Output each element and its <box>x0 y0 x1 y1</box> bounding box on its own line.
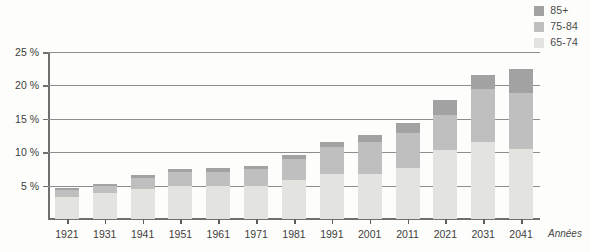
x-tick-mark <box>105 219 107 224</box>
bar-slot <box>464 52 502 219</box>
bar-segment-75-84 <box>93 186 117 193</box>
bar-segment-75-84 <box>168 172 192 186</box>
stacked-bar-chart: 85+75-8465-74 5 %10 %15 %20 %25 % 192119… <box>0 0 590 252</box>
stacked-bar <box>471 75 495 219</box>
x-tick-label: 1961 <box>199 228 237 240</box>
bar-slot <box>162 52 200 219</box>
bar-slot <box>389 52 427 219</box>
legend-item-label: 65-74 <box>550 37 578 48</box>
bar-segment-75-84 <box>282 159 306 180</box>
x-tick-label: 2011 <box>389 228 427 240</box>
bar-segment-75-84 <box>320 147 344 174</box>
bar-slot <box>237 52 275 219</box>
x-tick-mark <box>521 219 523 224</box>
legend-item: 85+ <box>534 4 568 17</box>
x-tick-label: 1941 <box>124 228 162 240</box>
x-tick-mark <box>294 219 296 224</box>
bar-segment-65-74 <box>433 150 457 219</box>
bar-slot <box>199 52 237 219</box>
x-tick-mark <box>256 219 258 224</box>
x-tick-mark <box>180 219 182 224</box>
stacked-bar <box>358 135 382 219</box>
x-tick-label: 2001 <box>351 228 389 240</box>
stacked-bar <box>55 188 79 219</box>
legend-swatch-icon <box>534 22 544 32</box>
x-tick-label: 1981 <box>275 228 313 240</box>
bar-segment-65-74 <box>471 142 495 219</box>
x-tick-mark <box>332 219 334 224</box>
stacked-bar <box>131 175 155 219</box>
bar-segment-65-74 <box>93 193 117 219</box>
bar-segment-75-84 <box>55 190 79 197</box>
bar-segment-65-74 <box>55 197 79 219</box>
bar-segment-85+ <box>509 69 533 94</box>
x-tick-label: 1971 <box>237 228 275 240</box>
x-tick-label: 1931 <box>86 228 124 240</box>
stacked-bar <box>168 169 192 219</box>
x-tick-mark <box>370 219 372 224</box>
legend-item-label: 85+ <box>550 5 568 16</box>
bar-segment-75-84 <box>131 178 155 189</box>
y-tick-label: 25 % <box>15 46 39 58</box>
stacked-bar <box>396 123 420 219</box>
legend-swatch-icon <box>534 38 544 48</box>
stacked-bar <box>93 184 117 219</box>
bar-slot <box>48 52 86 219</box>
x-axis-title: Années <box>548 228 582 239</box>
bar-segment-65-74 <box>509 149 533 219</box>
legend-item-label: 75-84 <box>550 21 578 32</box>
x-tick-label: 1951 <box>162 228 200 240</box>
legend-item: 75-84 <box>534 20 578 33</box>
bar-segment-75-84 <box>358 142 382 175</box>
x-tick-mark <box>445 219 447 224</box>
x-tick-label: 1991 <box>313 228 351 240</box>
bar-segment-65-74 <box>206 186 230 219</box>
bar-slot <box>351 52 389 219</box>
x-tick-mark <box>67 219 69 224</box>
x-tick-mark <box>483 219 485 224</box>
x-tick-label: 2031 <box>464 228 502 240</box>
x-tick-mark <box>218 219 220 224</box>
stacked-bar <box>320 142 344 219</box>
bar-segment-65-74 <box>168 186 192 219</box>
bar-segment-75-84 <box>509 93 533 148</box>
x-axis-ticks <box>48 219 540 225</box>
x-axis-labels: 1921193119411951196119711981199120012011… <box>48 228 540 240</box>
x-tick-label: 2021 <box>426 228 464 240</box>
bar-segment-75-84 <box>206 172 230 187</box>
bar-segment-65-74 <box>282 180 306 219</box>
bar-segment-85+ <box>471 75 495 88</box>
bar-slot <box>124 52 162 219</box>
bar-segment-65-74 <box>320 174 344 219</box>
bar-slot <box>502 52 540 219</box>
bar-series-container <box>48 52 540 219</box>
bar-slot <box>86 52 124 219</box>
bar-segment-75-84 <box>396 133 420 168</box>
legend-swatch-icon <box>534 6 544 16</box>
bar-segment-75-84 <box>471 89 495 142</box>
plot-area: 5 %10 %15 %20 %25 % <box>48 52 540 219</box>
stacked-bar <box>433 100 457 219</box>
y-tick-label: 5 % <box>21 180 39 192</box>
stacked-bar <box>282 155 306 219</box>
bar-segment-65-74 <box>396 168 420 219</box>
bar-segment-65-74 <box>244 186 268 219</box>
bar-segment-85+ <box>358 135 382 142</box>
bar-segment-75-84 <box>433 115 457 150</box>
x-tick-label: 1921 <box>48 228 86 240</box>
x-tick-label: 2041 <box>502 228 540 240</box>
stacked-bar <box>509 69 533 219</box>
bar-slot <box>313 52 351 219</box>
legend-item: 65-74 <box>534 36 578 49</box>
bar-segment-75-84 <box>244 169 268 186</box>
y-tick-label: 20 % <box>15 79 39 91</box>
y-tick-label: 15 % <box>15 113 39 125</box>
bar-segment-85+ <box>396 123 420 133</box>
stacked-bar <box>244 166 268 219</box>
x-tick-mark <box>408 219 410 224</box>
bar-slot <box>426 52 464 219</box>
bar-segment-65-74 <box>358 174 382 219</box>
chart-legend: 85+75-8465-74 <box>534 4 578 49</box>
y-tick-label: 10 % <box>15 146 39 158</box>
x-tick-mark <box>143 219 145 224</box>
